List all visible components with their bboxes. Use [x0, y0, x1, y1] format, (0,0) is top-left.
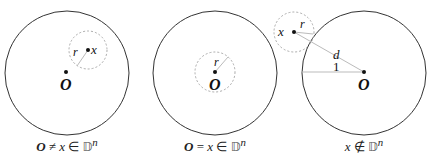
panel-2: r O [153, 11, 277, 135]
panel-3: x r d 1 O [274, 11, 426, 135]
caption-in: ∈ [213, 139, 231, 154]
caption-exponent: n [92, 136, 97, 148]
caption-in: ∈ [65, 139, 83, 154]
label-x: x [90, 42, 97, 57]
label-r: r [300, 17, 305, 31]
panel-1: x r O [5, 11, 129, 135]
label-origin: O [358, 76, 370, 93]
caption-panel-3: x ∉ 𝔻n [345, 136, 384, 155]
distance-line-d [294, 32, 364, 72]
label-one: 1 [333, 59, 340, 74]
caption-relation: = [194, 139, 208, 154]
caption-notin: ∉ [351, 139, 369, 154]
caption-disk-symbol: 𝔻 [83, 140, 93, 154]
diagram-canvas: x r O r O x r d 1 O [0, 0, 430, 156]
caption-disk-symbol: 𝔻 [231, 140, 241, 154]
origin-dot [213, 70, 217, 74]
caption-relation: ≠ [46, 139, 60, 154]
label-origin: O [60, 76, 72, 93]
radius-line [77, 50, 88, 66]
label-r: r [73, 45, 78, 59]
label-r: r [214, 55, 219, 69]
caption-panel-2: O = x ∈ 𝔻n [184, 136, 246, 155]
caption-panel-1: O ≠ x ∈ 𝔻n [36, 136, 98, 155]
caption-exponent: n [378, 136, 383, 148]
point-x-dot [292, 30, 296, 34]
point-x-dot [86, 48, 90, 52]
label-origin: O [209, 76, 221, 93]
caption-exponent: n [240, 136, 245, 148]
caption-origin: O [36, 139, 45, 154]
origin-dot [362, 70, 366, 74]
origin-dot [64, 70, 68, 74]
label-x: x [277, 24, 284, 39]
caption-origin: O [184, 139, 193, 154]
caption-disk-symbol: 𝔻 [368, 140, 378, 154]
